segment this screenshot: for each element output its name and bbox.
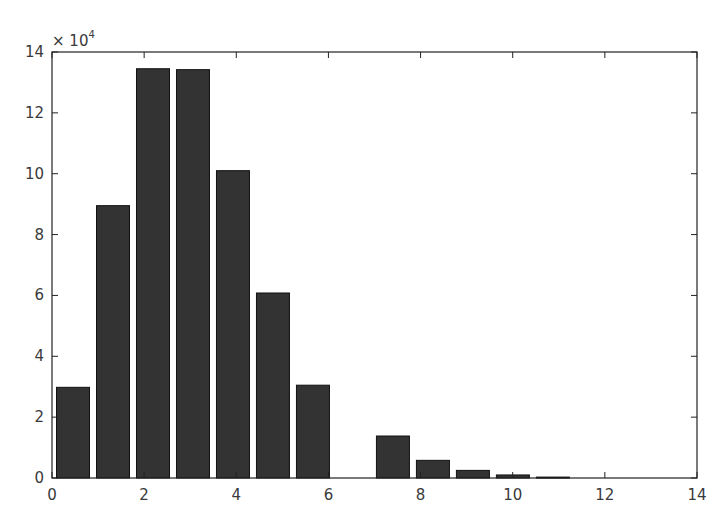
x-tick-label: 6 [324,486,334,504]
x-tick-label: 8 [416,486,426,504]
x-tick-label: 2 [139,486,149,504]
multiplier-base: × 10 [52,32,88,50]
histogram-bar [376,436,409,478]
x-tick-label: 4 [232,486,242,504]
histogram-bar [416,460,449,478]
y-tick-label: 6 [34,286,44,304]
x-tick-label: 0 [47,486,57,504]
histogram-bar [216,171,249,478]
y-tick-label: 0 [34,469,44,487]
y-axis-multiplier: × 104 [52,29,95,50]
x-tick-label: 14 [687,486,706,504]
histogram-bar [456,470,489,478]
y-tick-label: 14 [25,43,44,61]
histogram-bar [256,293,289,478]
x-axis-tick-labels: 02468101214 [47,486,706,504]
x-tick-label: 10 [503,486,522,504]
histogram-bar [57,387,90,478]
y-tick-label: 10 [25,165,44,183]
y-axis-tick-labels: 02468101214 [25,43,44,487]
y-tick-label: 4 [34,347,44,365]
y-tick-label: 2 [34,408,44,426]
histogram-bar [176,70,209,478]
y-tick-label: 8 [34,226,44,244]
histogram-bar [136,69,169,478]
histogram-chart: 02468101214 02468101214 × 104 [0,0,725,517]
x-tick-label: 12 [595,486,614,504]
multiplier-exponent: 4 [88,29,94,40]
histogram-bar [97,206,130,478]
histogram-bar [296,385,329,478]
y-tick-label: 12 [25,104,44,122]
bars-group [57,69,570,478]
